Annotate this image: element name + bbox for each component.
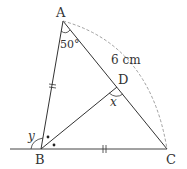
label-length-ac: 6 cm [111,53,141,67]
label-b: B [35,152,45,167]
tick-ab [49,84,56,88]
segment-bd [41,87,117,149]
geometry-diagram: A B C D 50° 6 cm x y [0,0,187,169]
label-d: D [118,72,128,87]
label-a: A [55,5,66,20]
label-angle-y: y [27,129,35,143]
angle-arc-a [61,30,70,33]
bisector-dot-2 [53,144,56,147]
bisector-dot-1 [47,136,50,139]
label-angle-x: x [110,95,117,109]
label-c: C [166,152,176,167]
label-angle-a: 50° [60,38,80,51]
